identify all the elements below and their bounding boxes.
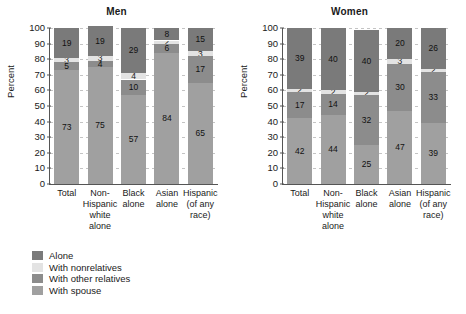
stacked-bar[interactable]: 3933226 <box>421 28 446 184</box>
bars-men: 7353197543195710429846286517315 <box>50 28 217 184</box>
bar-segment: 3 <box>387 59 412 64</box>
legend-item-label: With spouse <box>49 286 101 296</box>
legend-item-label: Alone <box>49 251 73 261</box>
legend-swatch <box>32 286 43 295</box>
y-axis-tick-label: 80 <box>19 54 45 64</box>
stacked-bar[interactable]: 84628 <box>154 28 179 184</box>
x-axis-category-label: Hispanic(of anyrace) <box>402 188 464 221</box>
bar-segment-value: 32 <box>362 116 371 125</box>
bar-segment: 2 <box>287 89 312 92</box>
y-axis-ticks-women: 1009080706050403020100 <box>266 28 282 184</box>
y-axis-label-men: Percent <box>5 50 16 114</box>
bar-segment: 17 <box>287 92 312 119</box>
legend-swatch <box>32 274 43 283</box>
bar-segment: 19 <box>88 26 113 56</box>
bar-segment-value: 73 <box>62 123 71 132</box>
bar-segment: 40 <box>321 28 346 90</box>
y-axis-tick-label: 40 <box>252 117 278 127</box>
x-axis-line-women <box>282 184 451 185</box>
y-axis-tick-label: 90 <box>19 39 45 49</box>
bar-segment: 2 <box>354 92 379 95</box>
bar-segment-value: 75 <box>95 121 104 130</box>
bar-segment: 8 <box>154 28 179 40</box>
bar-segment-value: 5 <box>64 62 69 70</box>
bar-segment-value: 17 <box>196 65 205 74</box>
legend-item-label: With other relatives <box>49 274 130 284</box>
bar-segment-value: 44 <box>328 145 337 154</box>
bar-segment-value: 3 <box>198 51 203 56</box>
bar-segment: 4 <box>121 73 146 79</box>
stacked-bar[interactable]: 4730320 <box>387 28 412 184</box>
legend-item[interactable]: With other relatives <box>32 273 252 285</box>
bar-segment: 2 <box>321 90 346 93</box>
bar-segment-value: 20 <box>395 39 404 48</box>
legend-item[interactable]: Alone <box>32 250 252 262</box>
y-axis-tick-label: 30 <box>19 132 45 142</box>
chart-panel-men: Men Percent 1009080706050403020100 73531… <box>0 0 233 232</box>
bar-segment: 14 <box>321 94 346 116</box>
bar-segment: 5 <box>54 62 79 70</box>
bar-segment: 10 <box>121 80 146 96</box>
legend-swatch <box>32 251 43 260</box>
stacked-bar[interactable]: 4414240 <box>321 28 346 184</box>
bar-segment: 25 <box>354 145 379 184</box>
bar-segment-value: 2 <box>364 92 369 95</box>
bar-segment: 73 <box>54 70 79 184</box>
stacked-bar[interactable]: 754319 <box>88 28 113 184</box>
y-axis-tick-label: 10 <box>252 164 278 174</box>
stacked-bar[interactable]: 6517315 <box>188 28 213 184</box>
bar-segment: 2 <box>421 69 446 72</box>
bar-segment-value: 6 <box>165 44 170 53</box>
bar-segment-value: 17 <box>295 101 304 110</box>
bar-segment: 17 <box>188 56 213 83</box>
stacked-bar[interactable]: 4217239 <box>287 28 312 184</box>
x-axis-labels-men: TotalNon-HispanicwhitealoneBlackaloneAsi… <box>50 188 217 232</box>
bar-segment-value: 39 <box>295 54 304 63</box>
bar-segment-value: 3 <box>398 59 403 64</box>
bar-segment: 3 <box>188 51 213 56</box>
stacked-bar[interactable]: 735319 <box>54 28 79 184</box>
legend-item[interactable]: With nonrelatives <box>32 262 252 274</box>
bar-segment-value: 39 <box>429 149 438 158</box>
bar-segment: 26 <box>421 28 446 69</box>
y-axis-tick-label: 40 <box>19 117 45 127</box>
chart-panel-women: Women Percent 1009080706050403020100 421… <box>233 0 466 232</box>
y-axis-tick-label: 80 <box>252 54 278 64</box>
bar-segment: 75 <box>88 67 113 184</box>
y-axis-tick-label: 70 <box>252 70 278 80</box>
bar-segment: 3 <box>54 58 79 63</box>
bar-segment-value: 8 <box>165 30 170 39</box>
legend-item-label: With nonrelatives <box>49 263 122 273</box>
panel-title-women: Women <box>233 6 466 17</box>
legend-item[interactable]: With spouse <box>32 285 252 297</box>
bar-segment-value: 3 <box>64 58 69 63</box>
bar-segment: 3 <box>88 56 113 61</box>
bar-segment-value: 30 <box>395 83 404 92</box>
bar-segment-value: 2 <box>431 69 436 72</box>
bar-segment-value: 42 <box>295 147 304 156</box>
bar-segment-value: 4 <box>98 61 103 67</box>
bar-segment: 29 <box>121 28 146 73</box>
bar-segment-value: 40 <box>328 55 337 64</box>
bar-segment: 47 <box>387 111 412 184</box>
x-axis-line-men <box>49 184 218 185</box>
bar-segment-value: 47 <box>395 143 404 152</box>
bar-segment-value: 65 <box>196 129 205 138</box>
stacked-bar[interactable]: 2532240 <box>354 28 379 184</box>
bar-segment-value: 29 <box>129 46 138 55</box>
bar-segment: 39 <box>287 28 312 89</box>
y-axis-label-women: Percent <box>238 50 249 114</box>
bar-segment: 15 <box>188 28 213 51</box>
y-axis-tick-label: 10 <box>19 164 45 174</box>
bar-segment-value: 2 <box>331 90 336 93</box>
bar-segment-value: 40 <box>362 57 371 66</box>
x-axis-category-label: Hispanic(of anyrace) <box>169 188 231 221</box>
bar-segment: 33 <box>421 72 446 123</box>
bar-segment-value: 84 <box>162 114 171 123</box>
bar-segment: 40 <box>354 30 379 92</box>
y-axis-tick-label: 90 <box>252 39 278 49</box>
bar-segment: 32 <box>354 95 379 145</box>
bar-segment: 30 <box>387 64 412 111</box>
stacked-bar[interactable]: 5710429 <box>121 28 146 184</box>
bar-segment-value: 19 <box>62 39 71 48</box>
